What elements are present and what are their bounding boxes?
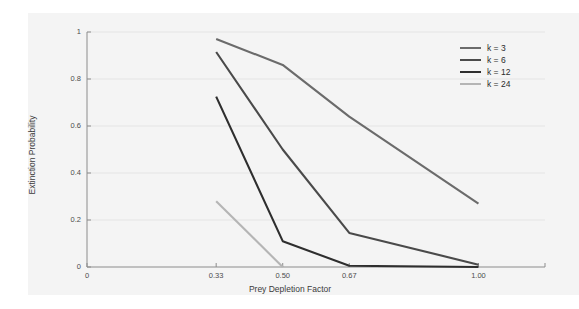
legend-item[interactable]: k = 12 [460,66,540,78]
x-tick-label: 1.00 [458,271,498,280]
legend-label: k = 6 [487,55,506,65]
x-tick-label: 0.33 [196,271,236,280]
series-line-k24 [216,201,283,267]
legend-item[interactable]: k = 3 [460,42,540,54]
legend-item[interactable]: k = 6 [460,54,540,66]
legend-item[interactable]: k = 24 [460,78,540,90]
legend-line-swatch-icon [460,47,481,49]
y-tick-label: 0.4 [41,168,81,177]
y-axis-title: Extinction Probability [27,85,37,225]
chart-legend: k = 3k = 6k = 12k = 24 [460,42,540,90]
series-line-k3 [216,39,478,204]
y-tick-label: 0.8 [41,74,81,83]
y-axis-ticks [87,32,91,267]
x-tick-label: 0.50 [263,271,303,280]
y-tick-label: 0.2 [41,215,81,224]
series-line-k6 [216,52,478,265]
legend-line-swatch-icon [460,59,481,61]
y-tick-label: 0 [41,262,81,271]
x-tick-label: 0 [67,271,107,280]
x-tick-label: 0.67 [329,271,369,280]
x-axis-title: Prey Depletion Factor [200,284,380,294]
chart-figure: 10.80.60.40.20 00.330.500.671.00 Extinct… [0,0,579,309]
legend-label: k = 12 [487,67,510,77]
legend-label: k = 24 [487,79,510,89]
legend-label: k = 3 [487,43,506,53]
legend-line-swatch-icon [460,83,481,85]
legend-line-swatch-icon [460,71,481,73]
y-tick-label: 0.6 [41,121,81,130]
data-series-group [216,39,478,267]
y-tick-label: 1 [41,27,81,36]
